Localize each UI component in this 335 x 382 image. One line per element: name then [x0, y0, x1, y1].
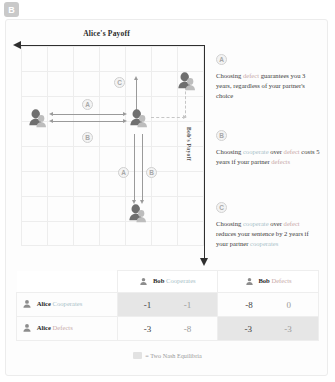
- row-header-action: Cooperates: [53, 300, 83, 307]
- gridline-h: [21, 146, 204, 147]
- chart-title: Alice's Payoff: [9, 29, 204, 38]
- bob-payoff-value: -8: [184, 324, 192, 334]
- matrix-legend: = Two Nash Equilibria: [16, 352, 319, 359]
- note-badge-a: A: [216, 54, 227, 65]
- alice-payoff-value: -1: [144, 300, 152, 310]
- data-point-cooperate-cooperate[interactable]: [27, 107, 49, 129]
- row-header-name: Alice: [37, 324, 51, 331]
- matrix-cell-dd[interactable]: -3 -3: [218, 317, 319, 341]
- data-point-defect-defect[interactable]: [128, 107, 150, 129]
- annotation-badge-c[interactable]: C: [114, 77, 125, 88]
- note-b: B Choosing cooperate over defect costs 5…: [216, 130, 320, 167]
- alice-payoff-value: -3: [244, 324, 252, 334]
- person-icon: [22, 323, 32, 334]
- matrix-cell-dc[interactable]: -3 -8: [117, 317, 218, 341]
- payoff-matrix-table: Bob Cooperates Bob Defects: [16, 270, 319, 341]
- person-icon: [22, 299, 32, 310]
- bob-payoff-value: -3: [284, 324, 292, 334]
- payoff-chart: Alice's Payoff Bob's Payoff: [9, 22, 214, 264]
- row-header-alice-defects: Alice Defects: [17, 317, 118, 341]
- gridline-h: [21, 96, 204, 97]
- arrow-tip-right: [123, 112, 127, 116]
- col-header-bob-cooperates: Bob Cooperates: [117, 271, 218, 293]
- col-header-name: Bob: [153, 277, 164, 284]
- table-header-row: Bob Cooperates Bob Defects: [17, 271, 319, 293]
- gridline-h: [21, 221, 204, 222]
- note-badge-c: C: [216, 202, 227, 213]
- col-header-name: Bob: [258, 277, 269, 284]
- table-row: Alice Cooperates -1 -1 -8 0: [17, 293, 319, 317]
- arrow-tip-left: [49, 119, 53, 123]
- panel-badge: B: [4, 2, 19, 17]
- bob-payoff-value: -1: [184, 300, 192, 310]
- row-header-alice-cooperates: Alice Cooperates: [17, 293, 118, 317]
- data-point-cooperate-defect[interactable]: [127, 202, 149, 224]
- table-row: Alice Defects -3 -8 -3 -3: [17, 317, 319, 341]
- arrow-tip-right: [123, 119, 127, 123]
- note-text-b: Choosing cooperate over defect costs 5 y…: [216, 147, 320, 167]
- note-c: C Choosing cooperate over defect reduces…: [216, 202, 320, 250]
- col-header-action: Defects: [271, 277, 291, 284]
- annotation-badge-b[interactable]: B: [82, 132, 93, 143]
- annotation-arrow-a-vertical: [134, 134, 135, 202]
- matrix-cell-cd[interactable]: -8 0: [218, 293, 319, 317]
- annotation-badge-a2[interactable]: A: [118, 167, 129, 178]
- col-header-action: Cooperates: [166, 277, 196, 284]
- bob-payoff-value: 0: [287, 300, 292, 310]
- annotation-notes: A Choosing defect guarantees you 3 years…: [216, 30, 324, 268]
- data-point-defect-cooperate[interactable]: [176, 70, 198, 92]
- gridline-h: [21, 171, 204, 172]
- annotation-badge-b2[interactable]: B: [146, 167, 157, 178]
- payoff-matrix: Bob Cooperates Bob Defects: [16, 270, 319, 359]
- matrix-legend-text: = Two Nash Equilibria: [145, 352, 201, 359]
- note-a: A Choosing defect guarantees you 3 years…: [216, 54, 320, 102]
- gridline-h: [21, 245, 204, 246]
- y-axis-arrow-icon: [200, 258, 208, 266]
- gridline-h: [21, 196, 204, 197]
- arrow-tip-left: [49, 112, 53, 116]
- row-header-name: Alice: [37, 300, 51, 307]
- note-badge-b: B: [216, 130, 227, 141]
- row-header-action: Defects: [53, 324, 73, 331]
- alice-payoff-value: -3: [144, 324, 152, 334]
- nash-swatch-icon: [133, 352, 142, 359]
- matrix-corner-cell: [17, 271, 118, 293]
- figure-card: Alice's Payoff Bob's Payoff: [5, 19, 328, 376]
- annotation-arrow-a-horizontal: [53, 114, 125, 115]
- alice-payoff-value: -8: [245, 300, 253, 310]
- arrow-tip-up: [134, 76, 138, 80]
- annotation-badge-a[interactable]: A: [82, 99, 93, 110]
- x-axis-arrow-icon: [13, 41, 21, 49]
- guide-line-horizontal: [151, 117, 185, 118]
- matrix-cell-cc[interactable]: -1 -1: [117, 293, 218, 317]
- note-text-c: Choosing cooperate over defect reduces y…: [216, 219, 320, 250]
- gridline-h: [21, 46, 204, 47]
- annotation-arrow-b-horizontal: [53, 121, 125, 122]
- x-axis: [21, 45, 205, 46]
- y-axis-label: Bob's Payoff: [186, 127, 192, 161]
- annotation-arrow-b-vertical: [142, 134, 143, 202]
- person-icon: [245, 277, 254, 287]
- y-axis: [204, 45, 205, 262]
- note-text-a: Choosing defect guarantees you 3 years, …: [216, 71, 320, 102]
- col-header-bob-defects: Bob Defects: [218, 271, 319, 293]
- person-icon: [139, 277, 148, 287]
